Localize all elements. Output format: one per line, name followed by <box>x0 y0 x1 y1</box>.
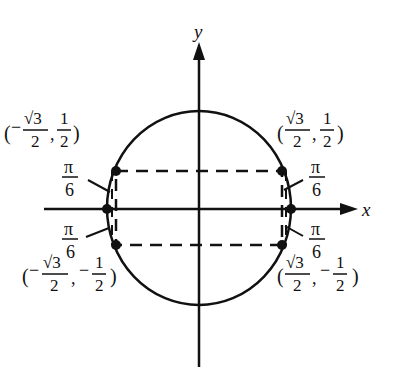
angle-label-lower-right: π 6 <box>309 219 325 262</box>
y-axis-arrow-icon <box>193 42 205 60</box>
svg-text:π: π <box>311 157 320 177</box>
svg-text:6: 6 <box>66 242 75 262</box>
svg-text:2: 2 <box>95 276 104 295</box>
svg-text:−: − <box>320 260 330 280</box>
svg-text:(: ( <box>277 122 284 145</box>
unit-circle-diagram: x y π 6 π 6 π 6 π 6 ( − √3 2 <box>0 0 396 372</box>
svg-text:): ) <box>73 122 80 145</box>
svg-text:): ) <box>352 265 359 288</box>
svg-text:√3: √3 <box>24 109 42 128</box>
svg-text:,: , <box>71 268 76 288</box>
svg-text:(: ( <box>277 265 284 288</box>
svg-text:): ) <box>337 122 344 145</box>
svg-text:(: ( <box>22 265 29 288</box>
point-q2 <box>111 166 121 176</box>
coord-label-q2: ( − √3 2 , 1 2 ) <box>4 109 80 151</box>
svg-text:): ) <box>110 265 117 288</box>
svg-text:√3: √3 <box>286 109 304 128</box>
x-axis-arrow-icon <box>340 203 358 215</box>
svg-text:2: 2 <box>31 132 40 151</box>
svg-text:(: ( <box>4 122 11 145</box>
coord-label-q1: ( √3 2 , 1 2 ) <box>277 109 344 151</box>
angle-pointer-lower-left <box>86 228 109 237</box>
y-axis-label: y <box>192 21 203 42</box>
svg-text:1: 1 <box>323 109 332 128</box>
svg-text:π: π <box>64 157 73 177</box>
svg-text:,: , <box>312 124 317 144</box>
svg-text:2: 2 <box>323 132 332 151</box>
point-q3 <box>111 240 121 250</box>
svg-text:,: , <box>50 124 55 144</box>
svg-text:2: 2 <box>336 276 345 295</box>
angle-pointer-upper-left <box>88 180 110 192</box>
svg-text:1: 1 <box>60 109 69 128</box>
svg-text:6: 6 <box>312 242 321 262</box>
svg-text:2: 2 <box>293 132 302 151</box>
svg-text:,: , <box>312 268 317 288</box>
point-pos-x <box>286 204 296 214</box>
svg-text:6: 6 <box>312 180 321 200</box>
svg-text:2: 2 <box>50 276 59 295</box>
svg-text:−: − <box>29 260 39 280</box>
svg-text:6: 6 <box>65 180 74 200</box>
svg-text:−: − <box>79 260 89 280</box>
point-q4 <box>277 240 287 250</box>
svg-text:√3: √3 <box>43 253 61 272</box>
svg-text:π: π <box>64 219 73 239</box>
point-q1 <box>277 166 287 176</box>
angle-label-lower-left: π 6 <box>62 219 78 262</box>
svg-text:1: 1 <box>336 253 345 272</box>
x-axis-label: x <box>361 199 371 220</box>
svg-text:−: − <box>11 117 21 137</box>
angle-label-upper-right: π 6 <box>309 157 325 200</box>
svg-text:π: π <box>311 219 320 239</box>
point-neg-x <box>102 204 112 214</box>
svg-text:2: 2 <box>293 276 302 295</box>
svg-text:1: 1 <box>95 253 104 272</box>
angle-label-upper-left: π 6 <box>62 157 78 200</box>
svg-text:2: 2 <box>60 132 69 151</box>
svg-text:√3: √3 <box>286 253 304 272</box>
